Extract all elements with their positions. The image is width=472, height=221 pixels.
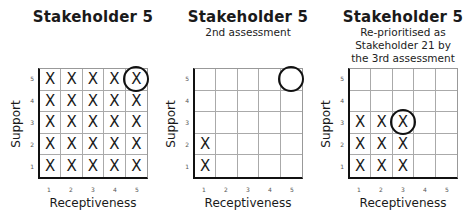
x-mark: X	[355, 135, 365, 153]
x-tick-label: 1	[354, 186, 364, 193]
grid-cell	[436, 91, 457, 113]
panel-3: Stakeholder 5Re-prioritised asStakeholde…	[0, 0, 472, 221]
x-mark: X	[376, 135, 386, 153]
grid-cell	[414, 155, 435, 177]
grid-cell	[436, 155, 457, 177]
y-tick-label: 5	[336, 75, 344, 82]
y-tick-label: 1	[336, 163, 344, 170]
grid-cell	[436, 134, 457, 156]
panel-title: Stakeholder 5	[333, 8, 472, 26]
x-mark: X	[376, 157, 386, 175]
y-tick-label: 3	[336, 119, 344, 126]
panel-subtitle: Re-prioritised as	[333, 26, 472, 39]
grid-cell	[414, 112, 435, 134]
grid-cell	[371, 91, 392, 113]
x-mark: X	[355, 157, 365, 175]
grid-cell: X	[393, 155, 414, 177]
matrix-grid: XXXXXXXXX	[348, 68, 458, 179]
grid-cell: X	[371, 134, 392, 156]
x-tick-label: 5	[442, 186, 452, 193]
circle-highlight-icon	[390, 109, 416, 135]
grid-cell: X	[350, 155, 371, 177]
y-tick-label: 2	[336, 141, 344, 148]
grid-cell	[350, 69, 371, 91]
grid-cell	[436, 69, 457, 91]
x-axis-label: Receptiveness	[348, 196, 458, 210]
x-tick-label: 2	[376, 186, 386, 193]
panel-subtitle: the 3rd assessment	[333, 52, 472, 65]
panel-subtitle: Stakeholder 21 by	[333, 39, 472, 52]
x-tick-label: 4	[420, 186, 430, 193]
grid-cell	[393, 69, 414, 91]
grid-cell	[414, 91, 435, 113]
grid-cell	[436, 112, 457, 134]
grid-cell	[414, 69, 435, 91]
y-axis-label: Support	[319, 84, 333, 164]
grid-cell: X	[393, 134, 414, 156]
grid-cell: X	[371, 155, 392, 177]
x-mark: X	[398, 157, 408, 175]
y-tick-label: 4	[336, 97, 344, 104]
grid-cell: X	[350, 134, 371, 156]
x-tick-label: 3	[398, 186, 408, 193]
x-mark: X	[398, 135, 408, 153]
grid-cell: X	[393, 112, 414, 134]
grid-cell: X	[350, 112, 371, 134]
grid-cell	[371, 69, 392, 91]
grid-cell	[414, 134, 435, 156]
grid-cell	[350, 91, 371, 113]
x-mark: X	[376, 113, 386, 131]
x-mark: X	[355, 113, 365, 131]
